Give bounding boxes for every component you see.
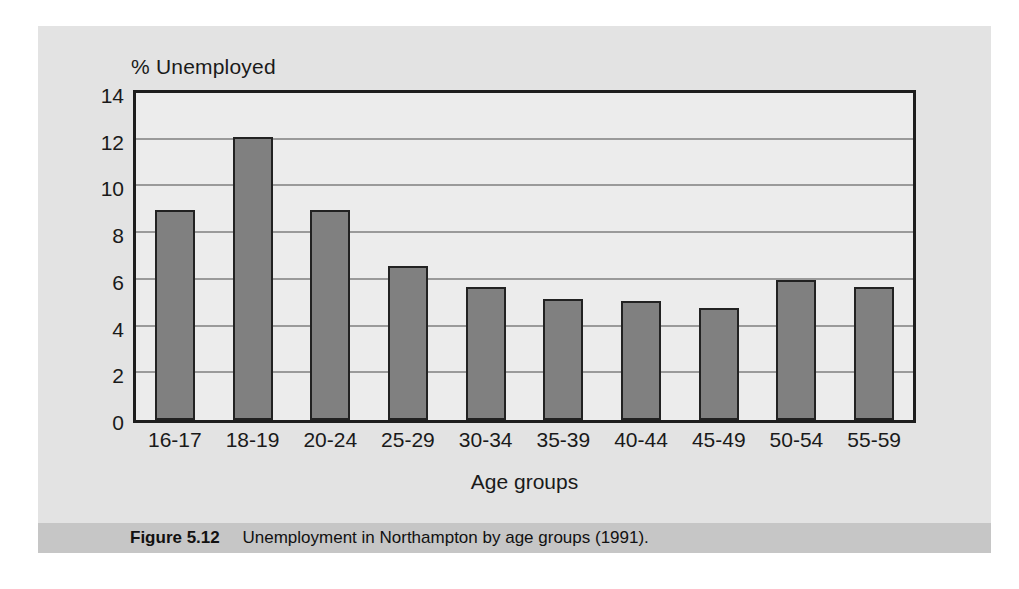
y-axis-tick-label: 14 <box>84 84 124 108</box>
bar <box>543 299 583 420</box>
y-axis-tick-label: 6 <box>84 271 124 295</box>
bar <box>233 137 273 420</box>
bar-slot <box>525 93 603 420</box>
bar-slot <box>369 93 447 420</box>
figure-caption-text: Unemployment in Northampton by age group… <box>243 528 649 547</box>
bar <box>621 301 661 420</box>
y-axis-tick-label: 8 <box>84 224 124 248</box>
figure-caption-band: Figure 5.12 Unemployment in Northampton … <box>38 523 991 553</box>
figure-block: % Unemployed 02468101214 16-1718-1920-24… <box>38 26 991 553</box>
bar-slot <box>602 93 680 420</box>
bar-chart: % Unemployed 02468101214 16-1718-1920-24… <box>38 26 991 511</box>
x-axis-tick-label: 45-49 <box>692 428 746 452</box>
bar <box>310 210 350 420</box>
x-axis-tick-label: 20-24 <box>303 428 357 452</box>
bar <box>854 287 894 420</box>
x-axis-tick-label: 35-39 <box>536 428 590 452</box>
bar-slot <box>136 93 214 420</box>
bar <box>155 210 195 420</box>
bar <box>699 308 739 420</box>
y-axis-tick-labels: 02468101214 <box>80 90 124 423</box>
bar-slot <box>835 93 913 420</box>
x-axis-tick-label: 16-17 <box>148 428 202 452</box>
bar <box>388 266 428 420</box>
x-axis-tick-label: 30-34 <box>459 428 513 452</box>
bar-slot <box>758 93 836 420</box>
bar <box>466 287 506 420</box>
x-axis-tick-label: 50-54 <box>770 428 824 452</box>
plot-area <box>133 90 916 423</box>
x-axis-tick-label: 55-59 <box>847 428 901 452</box>
bar <box>776 280 816 420</box>
y-axis-tick-label: 10 <box>84 177 124 201</box>
x-axis-tick-label: 40-44 <box>614 428 668 452</box>
bar-slot <box>291 93 369 420</box>
y-axis-tick-label: 2 <box>84 364 124 388</box>
bar-slot <box>447 93 525 420</box>
x-axis-tick-labels: 16-1718-1920-2425-2930-3435-3940-4445-49… <box>133 428 916 460</box>
y-axis-tick-label: 12 <box>84 131 124 155</box>
y-axis-title: % Unemployed <box>131 55 276 79</box>
x-axis-tick-label: 18-19 <box>226 428 280 452</box>
figure-caption: Figure 5.12 Unemployment in Northampton … <box>130 528 649 548</box>
bar-slot <box>214 93 292 420</box>
y-axis-tick-label: 4 <box>84 318 124 342</box>
figure-caption-label: Figure 5.12 <box>130 528 220 547</box>
x-axis-tick-label: 25-29 <box>381 428 435 452</box>
y-axis-tick-label: 0 <box>84 411 124 435</box>
x-axis-title: Age groups <box>133 470 916 494</box>
bars-layer <box>136 93 913 420</box>
bar-slot <box>680 93 758 420</box>
